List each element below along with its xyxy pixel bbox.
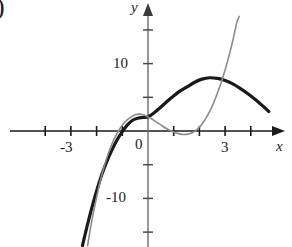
axes xyxy=(10,3,285,247)
curve-dark-curve xyxy=(82,78,268,246)
x-axis-arrowhead xyxy=(272,126,285,136)
y-axis-arrowhead xyxy=(143,3,153,16)
graph-canvas xyxy=(0,0,292,247)
x-axis-label: x xyxy=(276,139,283,154)
origin-label: 0 xyxy=(135,137,143,152)
y-tick-label-10: 10 xyxy=(113,56,128,71)
x-tick-label-neg3: -3 xyxy=(60,140,73,155)
x-tick-label-3: 3 xyxy=(221,140,229,155)
y-tick-label-neg10: -10 xyxy=(106,190,126,205)
y-axis-label: y xyxy=(131,0,138,15)
